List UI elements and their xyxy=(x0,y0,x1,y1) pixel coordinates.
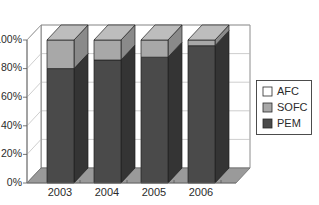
bar-2006-sofc-front xyxy=(188,40,215,46)
legend-swatch-sofc xyxy=(263,103,272,112)
bar-2004-sofc-front xyxy=(94,40,121,60)
stacked-column-chart: 100% 80% 60% 40% 20% 0% xyxy=(0,0,319,205)
x-tick-label-2005: 2005 xyxy=(142,186,166,198)
x-tick-label-2006: 2006 xyxy=(189,186,213,198)
legend-label-afc: AFC xyxy=(277,85,299,97)
bar-group-2006[interactable] xyxy=(188,25,229,183)
bar-group-2003[interactable] xyxy=(47,25,88,183)
legend-label-pem: PEM xyxy=(277,117,301,129)
y-tick-label-80: 80% xyxy=(1,61,22,73)
y-tick-label-40: 40% xyxy=(1,119,22,131)
legend-label-sofc: SOFC xyxy=(277,101,308,113)
y-axis-labels: 100% 80% 60% 40% 20% 0% xyxy=(0,33,22,188)
x-tick-label-2004: 2004 xyxy=(95,186,119,198)
bar-2004-pem-side xyxy=(121,45,135,183)
bar-group-2005[interactable] xyxy=(141,25,182,183)
bar-2003-pem-side xyxy=(74,54,88,183)
axis-depth-panel xyxy=(27,25,41,183)
y-tick-label-60: 60% xyxy=(1,90,22,102)
bar-2005-sofc-front xyxy=(141,40,168,57)
y-axis-ticks xyxy=(23,40,27,183)
y-tick-label-20: 20% xyxy=(1,147,22,159)
bar-2006-pem-side xyxy=(215,31,229,183)
x-tick-label-2003: 2003 xyxy=(48,186,72,198)
bar-2006-pem-front xyxy=(188,46,215,183)
bar-group-2004[interactable] xyxy=(94,25,135,183)
bar-2005-pem-side xyxy=(168,42,182,183)
bar-2003-pem-front xyxy=(47,69,74,183)
y-tick-label-100: 100% xyxy=(0,33,22,45)
chart-legend[interactable]: AFC SOFC PEM xyxy=(257,81,312,135)
chart-container: 100% 80% 60% 40% 20% 0% xyxy=(0,0,319,205)
y-tick-label-0: 0% xyxy=(7,176,22,188)
legend-swatch-afc xyxy=(263,87,272,96)
bar-2004-pem-front xyxy=(94,60,121,183)
x-axis-labels: 2003 2004 2005 2006 xyxy=(48,186,213,198)
bar-2003-sofc-front xyxy=(47,40,74,69)
bar-2005-pem-front xyxy=(141,57,168,183)
legend-swatch-pem xyxy=(263,119,272,128)
